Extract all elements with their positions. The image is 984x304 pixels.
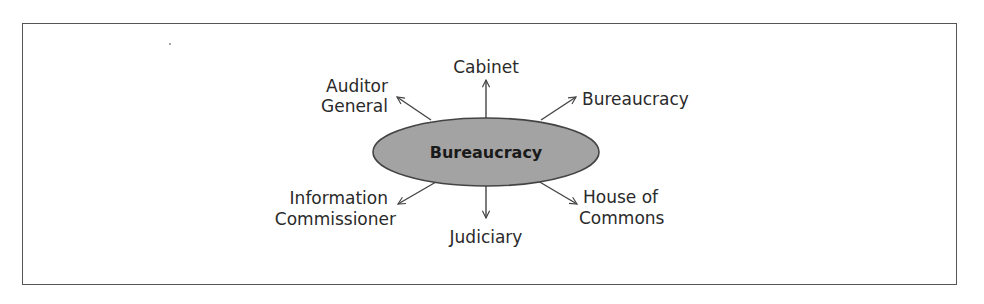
node-cabinet: Cabinet	[453, 57, 519, 77]
node-bureaucracy: Bureaucracy	[582, 89, 689, 109]
arrow-information-commissioner	[398, 182, 436, 204]
node-auditor-general-line2: General	[321, 96, 388, 116]
center-label: Bureaucracy	[430, 143, 543, 162]
node-information-commissioner-line1: Information	[290, 188, 388, 208]
node-house-of-commons-line2: Commons	[579, 208, 665, 228]
node-house-of-commons-line1: House of	[583, 187, 659, 207]
node-information-commissioner-line2: Commissioner	[275, 209, 396, 229]
node-auditor-general-line1: Auditor	[326, 76, 388, 96]
arrow-house-of-commons	[538, 181, 577, 204]
node-judiciary: Judiciary	[449, 227, 523, 247]
arrow-auditor-general	[397, 97, 431, 120]
accountability-diagram: Bureaucracy Cabinet Auditor General Bure…	[0, 0, 984, 304]
arrow-bureaucracy	[541, 97, 576, 120]
